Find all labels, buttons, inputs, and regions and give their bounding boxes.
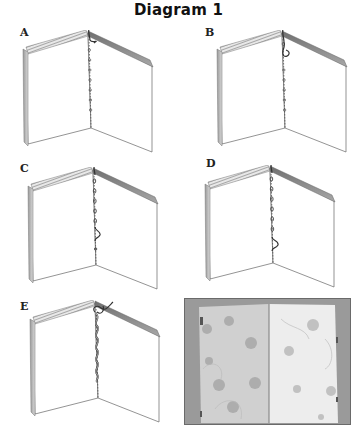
diagram-panel-b (214, 30, 354, 158)
diagram-panel-e (27, 300, 167, 427)
book-photo-image (185, 299, 350, 424)
diagram-panel-a (20, 30, 160, 158)
diagram-panel-c (25, 167, 165, 295)
finished-book-photo (184, 298, 351, 425)
diagram-panel-d (202, 165, 342, 293)
panel-label-b: B (205, 26, 214, 39)
diagram-title: Diagram 1 (0, 1, 357, 19)
